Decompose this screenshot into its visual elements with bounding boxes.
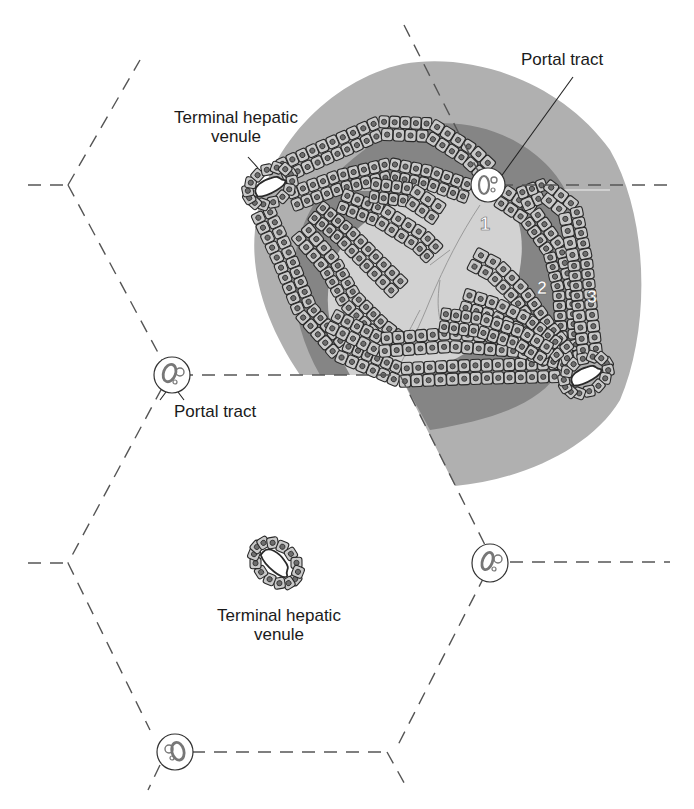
terminal-hepatic-venule-center (238, 525, 315, 600)
portal-tract-bottom (157, 734, 193, 770)
thv-top-line2: venule (160, 127, 312, 146)
thv-center-line2: venule (203, 625, 355, 644)
diagram-canvas: 1 2 3 (0, 0, 694, 809)
portal-tract-top (471, 168, 505, 202)
portal-tract-left-label: Portal tract (174, 402, 256, 421)
portal-tract-right (472, 544, 508, 582)
terminal-hepatic-venule-top-label: Terminal hepatic venule (160, 108, 312, 146)
zone-1-number: 1 (480, 214, 490, 234)
hepatic-acinus-diagram: 1 2 3 Portal tract Terminal hepatic venu… (0, 0, 694, 809)
zone-2-number: 2 (537, 278, 547, 298)
thv-top-line1: Terminal hepatic (160, 108, 312, 127)
terminal-hepatic-venule-center-label: Terminal hepatic venule (203, 606, 355, 644)
thv-center-line1: Terminal hepatic (203, 606, 355, 625)
portal-tract-top-label: Portal tract (521, 50, 603, 69)
portal-tract-left (154, 357, 190, 393)
zone-3-number: 3 (587, 287, 597, 307)
